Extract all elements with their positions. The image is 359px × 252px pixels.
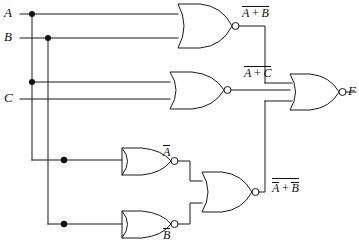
junction-dot-inverter2-input [61, 221, 67, 227]
label-expr-nor-not-a-not-b: A+B [272, 178, 299, 194]
overbar-not-b: B [163, 228, 170, 241]
expr-operator-plus-2: + [251, 66, 263, 80]
overbar-not-a: A [163, 145, 170, 158]
label-expr-nor-ab: A+B [242, 6, 269, 19]
overbar-group-nor-ab: A+B [242, 6, 269, 19]
junction-dot-a-branch [29, 79, 35, 85]
junction-dot-b-top [45, 35, 51, 41]
expr-term-b: B [261, 6, 268, 20]
gate-nor-5-bubble [252, 189, 259, 196]
label-output-f: F [348, 84, 356, 97]
label-not-b: B [163, 228, 170, 241]
circuit-schematic-svg [0, 0, 359, 252]
gate-nor-4-bubble [171, 221, 178, 228]
junction-dot-inverter1-input [61, 157, 67, 163]
not-a-term: A [163, 145, 170, 159]
label-input-a: A [4, 6, 12, 19]
junction-dot-a-top [29, 11, 35, 17]
gate-nor-2-body [170, 72, 224, 109]
gate-nor-1-body [178, 4, 232, 48]
label-expr-nor-ac: A+C [244, 66, 271, 79]
expr-term-c: C [263, 66, 271, 80]
overbar-inner-b: B [291, 182, 298, 194]
gate-nor-3-bubble [171, 158, 178, 165]
wire-not-b-to-gate5 [178, 203, 202, 224]
label-not-a: A [163, 145, 170, 158]
wire-not-a-to-gate5 [178, 161, 202, 181]
expr-operator-plus: + [249, 6, 261, 20]
gate-nor-5-body [202, 172, 252, 212]
gate-nor-2-bubble [224, 87, 231, 94]
not-b-term: B [163, 228, 170, 242]
circuit-diagram-canvas: A B C F A+B A+C A B A+B [0, 0, 359, 252]
expr-operator-plus-3: + [279, 181, 291, 195]
gate-nor-1-bubble [232, 23, 239, 30]
wire-gate5-output [259, 101, 265, 192]
gate-nor-6-bubble [339, 89, 346, 96]
expr-term-not-a: A [272, 181, 279, 195]
overbar-outer-group: A+B [272, 178, 299, 194]
overbar-inner-a: A [272, 182, 279, 194]
label-input-b: B [4, 30, 12, 43]
overbar-group-nor-ac: A+C [244, 66, 271, 79]
label-input-c: C [4, 91, 13, 104]
gate-nor-6-body [290, 74, 339, 110]
expr-term-not-b: B [291, 181, 298, 195]
